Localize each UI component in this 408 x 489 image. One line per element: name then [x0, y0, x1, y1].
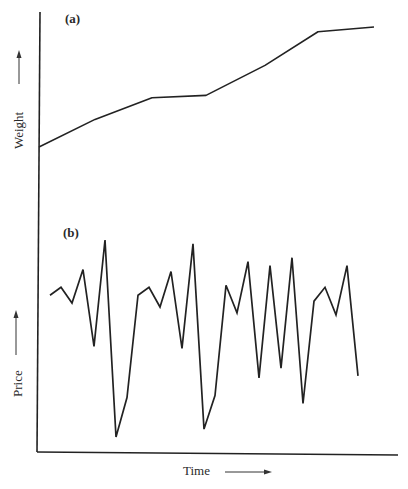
- weight-arrow-icon: [17, 50, 22, 84]
- chart-canvas: [0, 0, 408, 489]
- y-axis: [37, 12, 40, 452]
- x-axis: [37, 452, 398, 455]
- weight-series-line: [39, 27, 374, 147]
- x-axis-label-time: Time: [183, 463, 210, 479]
- panel-b-label: (b): [63, 225, 79, 241]
- time-arrow-icon: [225, 470, 272, 475]
- price-arrow-icon: [14, 310, 19, 355]
- y-axis-label-price: Price: [10, 370, 26, 397]
- price-series-line: [50, 240, 358, 437]
- panel-a-label: (a): [65, 11, 80, 27]
- y-axis-label-weight: Weight: [11, 112, 27, 149]
